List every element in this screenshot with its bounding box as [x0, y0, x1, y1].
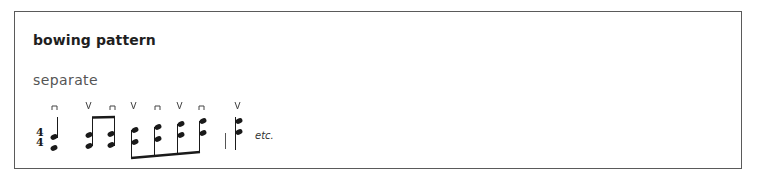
time-signature: 4 4 [36, 126, 44, 149]
down-bow-icon [52, 106, 57, 110]
eighth-quadruplet [131, 117, 208, 158]
final-note [235, 117, 244, 150]
time-signature-bottom: 4 [36, 136, 44, 149]
down-bow-icon [199, 106, 204, 110]
quarter-note [50, 117, 59, 152]
up-bow-icon [235, 102, 240, 109]
down-bow-icon [155, 106, 160, 110]
up-bow-icon [86, 102, 91, 109]
up-bow-icon [177, 102, 182, 109]
notes [50, 117, 244, 158]
music-notation: 4 4 [0, 0, 761, 178]
up-bow-icon [131, 102, 136, 109]
eighth-pair [85, 117, 116, 150]
bowing-marks [52, 102, 240, 110]
down-bow-icon [110, 106, 115, 110]
continuation-label: etc. [255, 130, 274, 141]
